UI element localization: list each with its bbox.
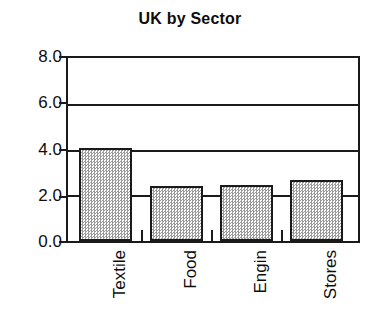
y-axis-tick-8	[59, 56, 66, 58]
plot-inner	[68, 58, 358, 241]
gridline-6	[68, 104, 358, 106]
y-axis-tick-6	[59, 102, 66, 104]
y-axis-tick-2	[59, 196, 66, 198]
bar-chart-figure: UK by Sector 8.0 6.0 4.0 2.0 0.0 Textile…	[0, 0, 380, 334]
bar-stores[interactable]	[290, 180, 343, 241]
bar-food[interactable]	[150, 186, 203, 241]
bar-engin[interactable]	[220, 185, 273, 241]
chart-title: UK by Sector	[0, 10, 380, 28]
x-axis-label-engin: Engin	[251, 250, 271, 293]
x-axis-tick-1	[141, 230, 143, 241]
y-axis-label-0: 0.0	[6, 232, 62, 252]
y-axis-label-2: 2.0	[6, 186, 62, 206]
x-axis-label-textile: Textile	[110, 250, 130, 298]
y-axis-tick-0	[59, 241, 66, 243]
y-axis-label-4: 4.0	[6, 140, 62, 160]
y-axis-label-8: 8.0	[6, 47, 62, 67]
y-axis-tick-4	[59, 149, 66, 151]
x-axis-label-food: Food	[181, 250, 201, 289]
x-axis-tick-3	[281, 230, 283, 241]
x-axis-tick-2	[211, 230, 213, 241]
x-axis-label-stores: Stores	[321, 250, 341, 299]
plot-area	[66, 56, 360, 243]
bar-textile[interactable]	[79, 148, 132, 241]
y-axis-label-6: 6.0	[6, 93, 62, 113]
